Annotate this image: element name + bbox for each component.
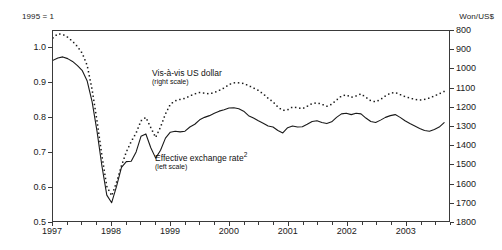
- bottom-axis-tick-2002: 2002: [327, 226, 367, 236]
- series-dot: [130, 142, 131, 143]
- bottom-tick-mark: [450, 222, 451, 225]
- right-axis-tick-1600: 1600: [456, 179, 498, 189]
- series-dot: [351, 96, 352, 97]
- series-dot: [146, 119, 147, 120]
- bottom-axis-tick-1998: 1998: [91, 226, 131, 236]
- bottom-axis-tick-1997: 1997: [32, 226, 72, 236]
- series-dot: [152, 130, 153, 131]
- series-dot: [105, 182, 106, 183]
- bottom-tick-mark: [199, 222, 200, 225]
- series-dot: [276, 105, 277, 106]
- left-axis-tick-0.7: 0.7: [6, 147, 46, 157]
- series-dot: [333, 101, 334, 102]
- series-dot: [169, 105, 170, 106]
- series-dot: [162, 120, 163, 121]
- series-dot: [392, 92, 393, 93]
- series-dot: [99, 141, 100, 142]
- series-dot: [187, 96, 188, 97]
- series-dot: [424, 99, 425, 100]
- series-dot: [295, 107, 296, 108]
- series-dot: [436, 94, 437, 95]
- series-dot: [287, 109, 288, 110]
- series-dot: [164, 116, 165, 117]
- series-dot: [93, 100, 94, 101]
- series-dot: [159, 128, 160, 129]
- series-dot: [125, 154, 126, 155]
- series-dot: [102, 161, 103, 162]
- right-tick-mark: [450, 49, 454, 50]
- series-dot: [136, 131, 137, 132]
- series-dot: [267, 97, 268, 98]
- annotation-solid-title: Effective exchange rate: [155, 153, 244, 163]
- series-dot: [134, 135, 135, 136]
- series-dot: [78, 48, 79, 49]
- left-axis-tick-0.9: 0.9: [6, 77, 46, 87]
- bottom-tick-mark: [347, 222, 348, 226]
- annotation-dotted-scale: (right scale): [152, 78, 222, 86]
- right-axis-tick-1000: 1000: [456, 63, 498, 73]
- bottom-tick-mark: [332, 222, 333, 225]
- right-axis-tick-800: 800: [456, 25, 498, 35]
- right-tick-mark: [450, 145, 454, 146]
- bottom-tick-mark: [96, 222, 97, 225]
- series-dot: [340, 96, 341, 97]
- series-dot: [105, 178, 106, 179]
- right-axis-tick-1400: 1400: [456, 140, 498, 150]
- bottom-tick-mark: [111, 222, 112, 226]
- series-dot: [373, 101, 374, 102]
- annotation-dotted-title: Vis-à-vis US dollar: [152, 68, 222, 78]
- series-dot: [440, 93, 441, 94]
- bottom-tick-mark: [244, 222, 245, 225]
- series-dot: [119, 169, 120, 170]
- bottom-tick-mark: [421, 222, 422, 225]
- right-axis-tick-1800: 1800: [456, 217, 498, 227]
- series-dot: [199, 92, 200, 93]
- series-dot: [359, 94, 360, 95]
- series-dot: [97, 128, 98, 129]
- series-dot: [283, 110, 284, 111]
- series-dot: [108, 190, 109, 191]
- bottom-tick-mark: [258, 222, 259, 225]
- series-dot: [55, 34, 56, 35]
- annotation-vis-a-vis-us-dollar: Vis-à-vis US dollar (right scale): [152, 68, 222, 86]
- left-axis-tick-0.6: 0.6: [6, 182, 46, 192]
- series-dot: [63, 34, 64, 35]
- series-dot: [207, 93, 208, 94]
- series-dot: [132, 138, 133, 139]
- bottom-tick-mark: [303, 222, 304, 225]
- plot-area: [52, 30, 450, 222]
- series-dot: [175, 100, 176, 101]
- series-dot: [98, 132, 99, 133]
- series-dot: [404, 96, 405, 97]
- series-dot: [112, 193, 113, 194]
- series-dot: [110, 193, 111, 194]
- right-tick-mark: [450, 30, 454, 31]
- series-dot: [377, 100, 378, 101]
- series-dot: [172, 102, 173, 103]
- series-dot: [86, 63, 87, 64]
- series-dot: [92, 91, 93, 92]
- series-dot: [280, 108, 281, 109]
- exchange-rate-chart-figure: 1995 = 1 Won/US$ 1.00.90.80.70.60.5 8009…: [0, 0, 502, 250]
- series-dot: [191, 94, 192, 95]
- series-dot: [363, 95, 364, 96]
- series-dot: [89, 79, 90, 80]
- series-dot: [264, 94, 265, 95]
- series-dot: [126, 150, 127, 151]
- right-tick-mark: [450, 164, 454, 165]
- series-dot: [432, 96, 433, 97]
- series-dot: [114, 185, 115, 186]
- bottom-tick-mark: [435, 222, 436, 225]
- bottom-tick-mark: [317, 222, 318, 225]
- series-dot: [344, 95, 345, 96]
- series-dot: [242, 83, 243, 84]
- left-axis-unit-label: 1995 = 1: [22, 12, 54, 21]
- series-dot: [310, 103, 311, 104]
- series-dot: [203, 92, 204, 93]
- bottom-axis-tick-2000: 2000: [209, 226, 249, 236]
- bottom-tick-mark: [170, 222, 171, 226]
- right-axis-tick-1700: 1700: [456, 198, 498, 208]
- bottom-tick-mark: [67, 222, 68, 225]
- series-dot: [121, 165, 122, 166]
- annotation-solid-scale: (left scale): [155, 163, 247, 171]
